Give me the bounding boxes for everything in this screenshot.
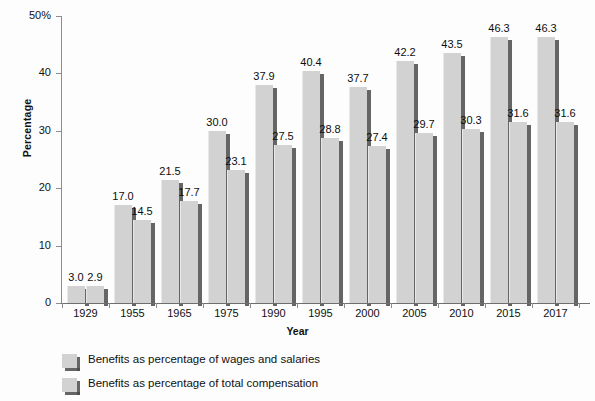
bar-chart: Percentage 01020304050% 3.02.917.014.521…	[0, 0, 595, 401]
bar-value-label: 30.0	[200, 116, 234, 128]
bar[interactable]	[443, 53, 461, 303]
bar-shadow	[198, 204, 202, 306]
x-tick-label: 1975	[204, 307, 250, 319]
x-tick-mark	[579, 303, 580, 308]
bar-value-label: 40.4	[294, 56, 328, 68]
legend-label: Benefits as percentage of wages and sala…	[88, 353, 320, 365]
legend-swatch-icon	[62, 378, 77, 392]
x-tick-label: 1995	[298, 307, 344, 319]
bar-shadow	[386, 149, 390, 306]
bar-value-label: 30.3	[454, 114, 488, 126]
legend-swatch-shadow-bottom-icon	[65, 392, 80, 395]
x-tick-label: 2010	[439, 307, 485, 319]
bar-value-label: 42.2	[388, 46, 422, 58]
bar-value-label: 27.4	[360, 131, 394, 143]
x-tick-label: 2015	[486, 307, 532, 319]
bar[interactable]	[490, 37, 508, 303]
x-tick-label: 2000	[345, 307, 391, 319]
bar-value-label: 37.7	[341, 72, 375, 84]
bar-value-label: 31.6	[501, 107, 535, 119]
bar-value-label: 21.5	[153, 165, 187, 177]
bar-shadow	[339, 141, 343, 306]
bar-shadow	[574, 125, 578, 306]
bar[interactable]	[368, 146, 386, 303]
bar[interactable]	[462, 129, 480, 303]
bar-value-label: 31.6	[548, 107, 582, 119]
legend-label: Benefits as percentage of total compensa…	[88, 377, 318, 389]
bar-shadow	[433, 136, 437, 306]
bar[interactable]	[114, 205, 132, 303]
x-axis-title: Year	[0, 325, 595, 337]
bar-value-label: 23.1	[219, 155, 253, 167]
x-tick-label: 1929	[63, 307, 109, 319]
bar[interactable]	[67, 286, 85, 303]
bar[interactable]	[509, 122, 527, 303]
bar[interactable]	[321, 138, 339, 303]
bar-value-label: 27.5	[266, 130, 300, 142]
bar[interactable]	[537, 37, 555, 303]
bar[interactable]	[227, 170, 245, 303]
bar[interactable]	[349, 87, 367, 303]
legend-swatch-icon	[62, 354, 77, 368]
bar[interactable]	[133, 220, 151, 303]
x-tick-label: 1965	[157, 307, 203, 319]
bar[interactable]	[86, 286, 104, 303]
bar[interactable]	[180, 201, 198, 303]
bar-shadow	[527, 125, 531, 306]
bar-value-label: 17.0	[106, 190, 140, 202]
bar-value-label: 46.3	[482, 22, 516, 34]
bar[interactable]	[415, 133, 433, 303]
bar-shadow	[480, 132, 484, 306]
bar-value-label: 37.9	[247, 70, 281, 82]
x-axis-line	[61, 303, 590, 304]
plot-area: 3.02.917.014.521.517.730.023.137.927.540…	[0, 0, 595, 401]
bar-value-label: 28.8	[313, 123, 347, 135]
bar-value-label: 14.5	[125, 205, 159, 217]
x-tick-label: 1955	[110, 307, 156, 319]
bar-shadow	[292, 148, 296, 306]
bar[interactable]	[274, 145, 292, 303]
bar-value-label: 43.5	[435, 38, 469, 50]
legend-swatch-shadow-bottom-icon	[65, 368, 80, 371]
x-tick-label: 1990	[251, 307, 297, 319]
bar-value-label: 29.7	[407, 118, 441, 130]
bar-value-label: 17.7	[172, 186, 206, 198]
bar-value-label: 46.3	[529, 22, 563, 34]
bar[interactable]	[396, 61, 414, 303]
bar-shadow	[151, 223, 155, 306]
x-tick-label: 2017	[533, 307, 579, 319]
bar[interactable]	[556, 122, 574, 303]
x-tick-label: 2005	[392, 307, 438, 319]
bar-value-label: 2.9	[78, 271, 112, 283]
bar[interactable]	[255, 85, 273, 303]
bar[interactable]	[302, 71, 320, 303]
bar-shadow	[245, 173, 249, 306]
